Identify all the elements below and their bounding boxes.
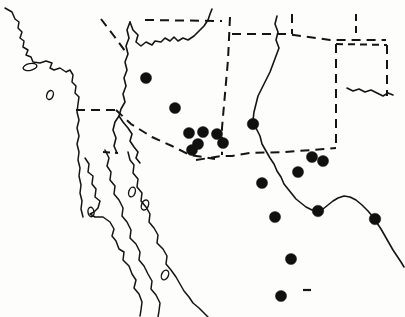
river-rio-grande: [253, 16, 404, 267]
locality-dot: [269, 211, 280, 222]
locality-dot: [306, 151, 317, 162]
locality-dot: [285, 253, 296, 264]
border-nevada-utah: [101, 19, 125, 51]
locality-dot: [292, 166, 303, 177]
border-utah-arizona: [145, 20, 222, 21]
map-canvas: [0, 0, 405, 317]
border-arizona-newmexico: [222, 17, 230, 155]
islands-layer: [22, 62, 170, 281]
border-colorado-newmexico: [232, 34, 386, 40]
island-pacific-small: [45, 90, 54, 101]
locality-dot: [256, 177, 267, 188]
island-gulf-west: [87, 207, 94, 217]
locality-dot: [197, 126, 208, 137]
island-pacific-north: [22, 62, 37, 72]
locality-dot: [275, 290, 286, 301]
coastline-mexico-gulf: [128, 152, 208, 317]
distribution-map: [0, 0, 405, 317]
coastlines-layer: [5, 8, 208, 317]
political-borders-layer: [76, 14, 387, 160]
locality-dots-layer: [140, 72, 380, 301]
coastline-baja-west: [85, 158, 142, 316]
locality-dot: [247, 118, 259, 130]
river-branch: [113, 116, 119, 153]
locality-dot: [140, 72, 151, 83]
locality-dot: [183, 127, 194, 138]
locality-dot: [369, 213, 381, 225]
locality-dot: [169, 102, 180, 113]
locality-dot: [317, 155, 328, 166]
locality-dot: [312, 205, 324, 217]
river-colorado: [130, 9, 212, 46]
island-gulf-north: [127, 186, 136, 197]
locality-dot: [186, 144, 197, 155]
border-oklahoma-panhandle-north: [336, 44, 387, 45]
locality-dot: [217, 137, 228, 148]
island-gulf-south: [160, 269, 170, 281]
coastline-california-pacific: [5, 8, 83, 217]
